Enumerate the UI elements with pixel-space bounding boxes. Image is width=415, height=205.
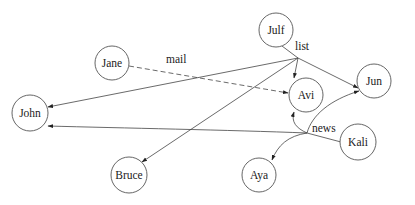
node-jane: Jane [95,46,129,80]
node-label-kali: Kali [348,136,368,148]
node-label-jun: Jun [366,75,382,87]
node-avi: Avi [289,78,323,112]
node-label-john: John [19,107,41,119]
edge-label-mail: mail [166,53,186,65]
node-label-avi: Avi [298,89,314,101]
edge-label-news: news [312,122,336,134]
edge-mail: mail [129,53,288,93]
edge-news-to-aya [272,133,307,160]
node-kali: Kali [340,124,376,160]
node-bruce: Bruce [111,157,147,193]
edge-list-to-john [48,58,298,107]
node-label-aya: Aya [250,169,268,182]
edge-list-to-avi [294,58,298,78]
node-julf: Julf [259,13,293,47]
node-aya: Aya [242,158,276,192]
node-jun: Jun [357,64,391,98]
edge-news-to-john [48,126,307,133]
edge-news-kali-hub [307,133,341,142]
hypergraph-diagram: mail list news Jane Julf Jun Avi John [0,0,415,205]
edge-mail-jane-avi [129,66,288,93]
node-label-bruce: Bruce [115,169,142,181]
edge-news-to-avi [293,112,307,133]
node-john: John [12,95,48,131]
node-label-jane: Jane [102,57,122,69]
edge-label-list: list [295,40,310,52]
node-label-julf: Julf [267,24,284,36]
